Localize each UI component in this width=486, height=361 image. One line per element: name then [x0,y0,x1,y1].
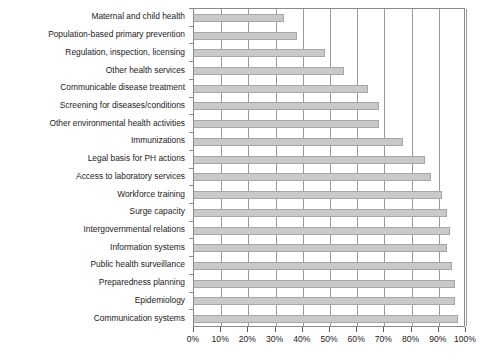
bar-row [194,67,464,75]
y-axis-label: Public health surveillance [0,260,189,269]
bar-row [194,244,464,252]
y-axis-label: Intergovernmental relations [0,225,189,234]
y-axis-label: Epidemiology [0,296,189,305]
x-axis-label: 40% [293,334,310,344]
x-axis-label: 20% [239,334,256,344]
bar [194,32,297,40]
y-axis-label: Access to laboratory services [0,172,189,181]
x-axis-tick [302,327,303,332]
y-axis-label: Screening for diseases/conditions [0,101,189,110]
x-axis-tick [465,327,466,332]
y-axis-label: Communicable disease treatment [0,83,189,92]
bar [194,173,431,181]
x-axis-tick [193,327,194,332]
x-axis-label: 80% [402,334,419,344]
y-axis-label: Communication systems [0,314,189,323]
bar-row [194,315,464,323]
bar [194,297,455,305]
bar-row [194,14,464,22]
bar-row [194,138,464,146]
x-axis-tick [411,327,412,332]
y-axis-label: Maternal and child health [0,12,189,21]
x-axis-label: 30% [266,334,283,344]
x-axis-tick [438,327,439,332]
y-axis-label: Information systems [0,243,189,252]
x-axis-tick [220,327,221,332]
x-axis-tick [275,327,276,332]
x-axis-label: 60% [348,334,365,344]
x-axis-tick [247,327,248,332]
bar [194,102,379,110]
bar-row [194,191,464,199]
bar-row [194,156,464,164]
bar-series [194,9,464,326]
bar [194,156,425,164]
bar [194,120,379,128]
bar [194,262,452,270]
x-axis-label: 10% [212,334,229,344]
x-axis-label: 90% [429,334,446,344]
y-axis-label: Workforce training [0,190,189,199]
y-axis-label: Population-based primary prevention [0,30,189,39]
x-axis-tick [329,327,330,332]
bar-row [194,280,464,288]
bar [194,14,284,22]
bar-row [194,227,464,235]
x-axis-label: 100% [454,334,476,344]
bar-row [194,209,464,217]
bar-row [194,85,464,93]
y-axis-label: Immunizations [0,136,189,145]
bar-row [194,120,464,128]
x-axis-label: 70% [375,334,392,344]
gridline-100 [466,9,467,326]
bar-row [194,173,464,181]
bar [194,280,455,288]
bar-row [194,262,464,270]
bar [194,138,403,146]
bar [194,315,458,323]
bar [194,191,442,199]
y-axis-label: Surge capacity [0,207,189,216]
plot-area [193,8,465,327]
bar-row [194,32,464,40]
x-axis-tick [383,327,384,332]
bar [194,209,447,217]
x-axis: 0%10%20%30%40%50%60%70%80%90%100% [193,327,465,357]
y-axis-label: Other environmental health activities [0,119,189,128]
x-axis-label: 50% [320,334,337,344]
bar [194,49,325,57]
y-axis-label: Preparedness planning [0,278,189,287]
chart-figure: Maternal and child healthPopulation-base… [0,0,486,361]
bar-row [194,297,464,305]
bar [194,244,447,252]
bar [194,85,368,93]
y-axis-label: Other health services [0,66,189,75]
y-axis-label: Legal basis for PH actions [0,154,189,163]
bar-row [194,102,464,110]
bar-row [194,49,464,57]
x-axis-label: 0% [187,334,199,344]
y-axis-category-labels: Maternal and child healthPopulation-base… [0,8,189,327]
bar [194,227,450,235]
x-axis-tick [356,327,357,332]
bar [194,67,344,75]
y-axis-label: Regulation, inspection, licensing [0,48,189,57]
